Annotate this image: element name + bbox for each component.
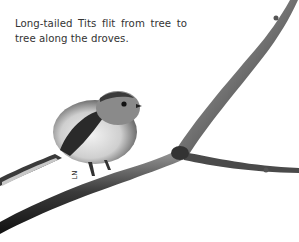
bird-on-branch-image <box>0 0 299 242</box>
artist-signature: LN <box>71 170 79 179</box>
branch <box>0 0 299 234</box>
